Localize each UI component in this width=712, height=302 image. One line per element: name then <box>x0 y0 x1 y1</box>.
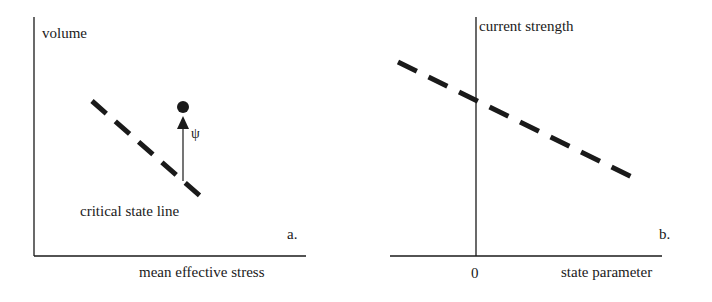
panel-b-y-axis-label: current strength <box>479 19 574 34</box>
panel-a-y-axis-label: volume <box>42 26 87 41</box>
panel-a-axes <box>34 17 306 256</box>
panel-b-label: b. <box>659 227 670 242</box>
strength-line <box>398 62 638 180</box>
psi-arrow-head <box>177 116 189 129</box>
panel-b-origin-tick: 0 <box>471 266 479 281</box>
critical-state-line-label: critical state line <box>80 204 179 219</box>
panel-b-axes <box>390 17 662 256</box>
psi-symbol-label: ψ <box>191 127 200 141</box>
figure-canvas <box>0 0 712 302</box>
critical-state-line <box>92 101 206 201</box>
panel-b-x-axis-label: state parameter <box>561 265 652 280</box>
state-point-marker <box>177 101 189 113</box>
panel-a-x-axis-label: mean effective stress <box>139 265 265 280</box>
panel-a-label: a. <box>287 227 297 242</box>
